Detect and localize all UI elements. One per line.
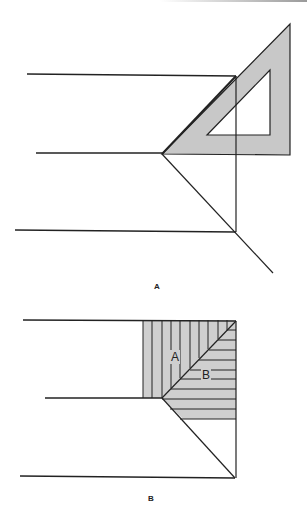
region-a-label: A [170, 350, 180, 364]
line-bottom [20, 476, 235, 478]
panel-b-caption: B [148, 494, 154, 503]
diagonal-line [162, 154, 273, 273]
line-top [27, 74, 236, 76]
diagram-canvas [0, 0, 307, 515]
panel-b [20, 320, 236, 478]
panel-a [15, 24, 290, 273]
region-b-label: B [201, 368, 211, 382]
line-bottom [15, 230, 236, 232]
panel-a-caption: A [154, 282, 160, 291]
line-top [23, 320, 236, 321]
set-square [162, 24, 290, 155]
